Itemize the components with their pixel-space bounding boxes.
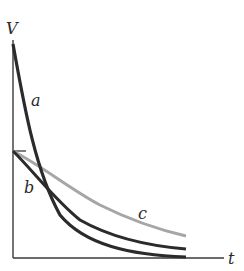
curve-a-label: a [31,91,41,110]
curve-c-label: c [138,204,147,223]
curve-a [13,44,186,257]
y-axis-label: V [6,19,19,38]
x-axis-label: t [228,249,235,268]
curve-b-label: b [24,178,34,197]
decay-curves-figure: V t a b c [0,0,244,271]
